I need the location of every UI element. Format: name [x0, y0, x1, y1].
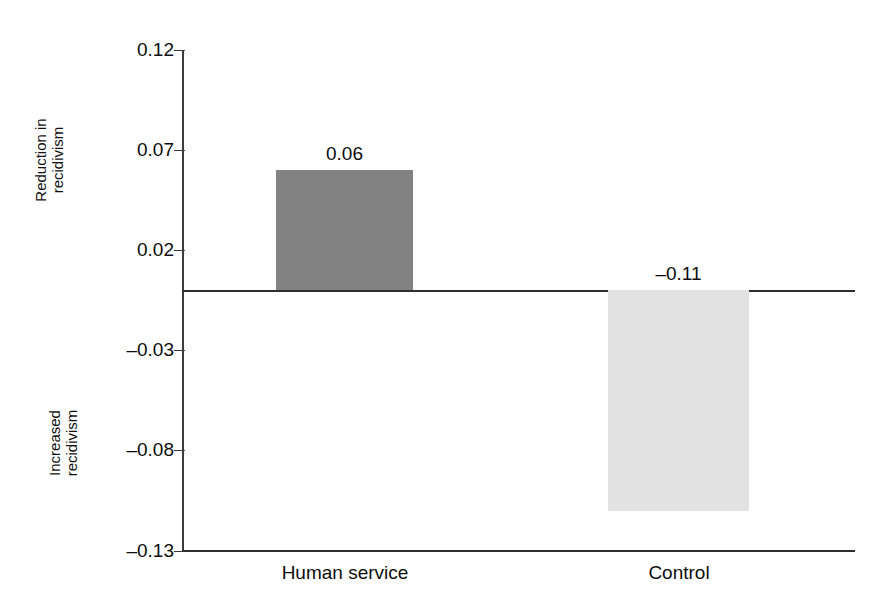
y-axis-line — [182, 50, 184, 552]
y-axis-title-reduction-line2: recidivism — [49, 50, 66, 270]
zero-reference-line — [182, 290, 855, 292]
bar-human-service — [276, 170, 413, 290]
x-axis-line — [182, 550, 855, 552]
y-tick-label-1: 0.07 — [88, 140, 174, 159]
y-axis-title-increased-line2: recidivism — [63, 333, 80, 553]
y-tick-label-5: –0.13 — [88, 541, 174, 560]
y-tick-label-4: –0.08 — [88, 440, 174, 459]
y-tick-label-0: 0.12 — [88, 40, 174, 59]
bar-chart: Reduction in recidivism Increased recidi… — [0, 0, 878, 613]
y-axis-title-reduction-line1: Reduction in — [32, 50, 49, 270]
y-tick-label-2: 0.02 — [88, 240, 174, 259]
bar-value-label-human-service: 0.06 — [276, 144, 413, 163]
y-axis-title-increased-line1: Increased — [46, 333, 63, 553]
y-axis-title-reduction: Reduction in recidivism — [32, 50, 68, 270]
x-axis-category-control: Control — [618, 563, 740, 582]
y-axis-title-increased: Increased recidivism — [46, 333, 82, 553]
y-tick-label-3: –0.03 — [88, 340, 174, 359]
x-axis-category-human-service: Human service — [264, 563, 426, 582]
bar-value-label-control: –0.11 — [605, 264, 752, 283]
bar-control — [608, 290, 749, 510]
